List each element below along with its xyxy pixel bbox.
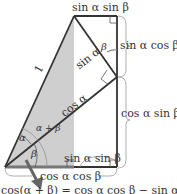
cosine-addition-diagram: sin α sin β sin α cos β sin α β 1 cos α … [0,0,177,194]
angle-arc-beta-top [107,50,117,52]
label-hypotenuse-one: 1 [32,63,47,75]
right-angle-mid [101,70,109,85]
label-right-lower: cos α sin β [121,107,177,120]
brace-bottom [5,168,32,176]
label-top-segment: sin α sin β [72,1,129,14]
right-angle-top [110,16,117,23]
label-bottom-inner: sin α sin β [64,152,121,165]
label-angle-beta-top: β [100,41,107,52]
label-right-upper: sin α cos β [120,39,177,52]
label-angle-alpha: α [19,132,26,143]
label-angle-alpha-plus-beta: α + β [36,123,61,133]
label-sin-alpha-side: sin α [73,45,103,72]
label-angle-beta: β [30,148,37,159]
label-bottom-segment: cos α cos β [40,170,101,183]
formula: cos(α + β) = cos α cos β − sin α sin β [1,184,177,194]
